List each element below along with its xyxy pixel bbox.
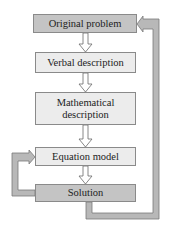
- node-original-problem: Original problem: [33, 14, 137, 33]
- node-mathematical-description: Mathematical description: [35, 92, 136, 125]
- node-label: Equation model: [52, 151, 119, 163]
- node-label: Verbal description: [47, 57, 124, 69]
- arrow-down-icon: [79, 73, 92, 92]
- node-label-line2: description: [62, 109, 109, 121]
- arrow-down-icon: [79, 166, 92, 184]
- node-label: Original problem: [49, 18, 122, 30]
- node-label-line1: Mathematical: [57, 97, 115, 109]
- iteration-loop-arrow: [12, 150, 35, 196]
- arrow-down-icon: [79, 33, 92, 52]
- node-label: Solution: [68, 187, 104, 199]
- arrow-down-icon: [79, 125, 92, 147]
- node-equation-model: Equation model: [35, 147, 136, 166]
- node-solution: Solution: [35, 184, 136, 202]
- node-verbal-description: Verbal description: [35, 52, 136, 73]
